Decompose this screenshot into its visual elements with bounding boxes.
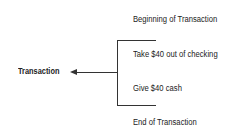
arrow-shaft xyxy=(76,72,117,73)
step-end: End of Transaction xyxy=(133,117,197,127)
step-beginning: Beginning of Transaction xyxy=(133,14,217,24)
step-take-from-checking: Take $40 out of checking xyxy=(133,49,218,59)
bracket-bottom xyxy=(117,105,156,106)
step-give-cash: Give $40 cash xyxy=(133,83,182,93)
bracket-vertical xyxy=(117,40,118,106)
transaction-label: Transaction xyxy=(18,66,59,76)
bracket-top xyxy=(117,40,156,41)
